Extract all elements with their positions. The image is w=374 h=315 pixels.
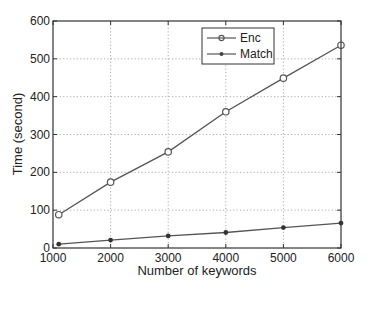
series-line-match — [59, 223, 341, 244]
x-tick-label: 2000 — [97, 251, 124, 265]
y-tick-label: 200 — [30, 165, 50, 179]
y-tick-label: 0 — [43, 241, 50, 255]
grid-lines — [53, 21, 341, 248]
x-tick-label: 5000 — [270, 251, 297, 265]
data-point-match — [166, 233, 171, 238]
legend-label-enc: Enc — [240, 31, 261, 45]
legend: Enc Match — [202, 28, 274, 64]
y-tick-label: 300 — [30, 128, 50, 142]
data-point-enc — [165, 149, 171, 155]
legend-label-match: Match — [240, 47, 273, 61]
data-point-match — [108, 238, 113, 243]
series-line-enc — [59, 45, 341, 214]
y-axis-ticks: 0100200300400500600 — [30, 14, 341, 255]
y-tick-label: 600 — [30, 14, 50, 28]
series-group — [56, 42, 345, 247]
x-axis-label: Number of keywords — [137, 263, 257, 278]
y-tick-label: 400 — [30, 90, 50, 104]
line-chart: 100020003000400050006000 010020030040050… — [0, 0, 374, 315]
data-point-enc — [223, 109, 229, 115]
data-point-enc — [107, 179, 113, 185]
data-point-match — [56, 242, 61, 247]
data-point-enc — [280, 75, 286, 81]
x-axis-ticks: 100020003000400050006000 — [40, 21, 355, 265]
x-tick-label: 6000 — [328, 251, 355, 265]
asterisk-marker-icon — [220, 52, 224, 56]
data-point-match — [223, 230, 228, 235]
data-point-enc — [56, 212, 62, 218]
data-point-match — [281, 225, 286, 230]
y-tick-label: 100 — [30, 203, 50, 217]
y-axis-label: Time (second) — [10, 93, 25, 176]
y-tick-label: 500 — [30, 52, 50, 66]
